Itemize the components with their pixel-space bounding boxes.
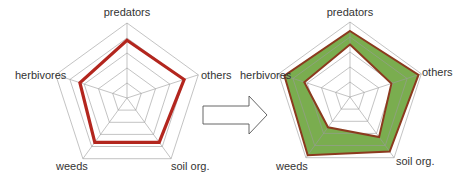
grid-spoke bbox=[56, 75, 127, 98]
left-label-others: others bbox=[201, 69, 232, 81]
right-label-others: others bbox=[422, 66, 453, 78]
right-label-weeds: weeds bbox=[275, 160, 308, 172]
right-label-predators: predators bbox=[327, 6, 374, 18]
radar-chart-before bbox=[56, 23, 199, 159]
grid-spoke bbox=[127, 75, 198, 98]
radar-chart-after bbox=[279, 22, 422, 158]
left-label-herbivores: herbivores bbox=[15, 69, 67, 81]
grid-spoke bbox=[83, 98, 127, 159]
right-label-herbivores: herbivores bbox=[240, 69, 292, 81]
range-band bbox=[284, 31, 418, 155]
right-arrow-icon bbox=[203, 96, 267, 134]
left-label-soil: soil org. bbox=[171, 160, 210, 172]
left-label-predators: predators bbox=[104, 6, 151, 18]
right-label-soil: soil org. bbox=[396, 155, 435, 167]
radar-comparison-diagram: predators others soil org. weeds herbivo… bbox=[0, 0, 461, 177]
left-label-weeds: weeds bbox=[55, 160, 88, 172]
